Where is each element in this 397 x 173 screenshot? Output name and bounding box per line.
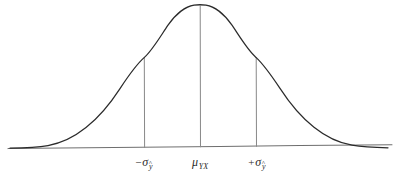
axis-label-mean: μYX — [192, 156, 209, 171]
axis-label-minus-sigma: −σ^y — [135, 156, 152, 171]
axis-label-plus-sigma: +σ^y — [248, 156, 265, 171]
subscript-y-hat: ^y — [262, 163, 266, 171]
subscript-yx: YX — [198, 162, 208, 171]
plus-sign: + — [248, 156, 255, 168]
subscript-y-hat: ^y — [149, 163, 153, 171]
minus-sign: − — [135, 156, 142, 168]
distribution-plot-canvas — [0, 0, 397, 173]
normal-distribution-curve-path — [10, 5, 388, 148]
mu-symbol: μ — [192, 155, 198, 169]
normal-distribution-figure: −σ^y μYX +σ^y — [0, 0, 397, 173]
hat-accent: ^ — [149, 160, 153, 167]
hat-accent: ^ — [262, 160, 266, 167]
